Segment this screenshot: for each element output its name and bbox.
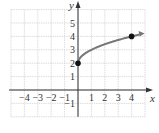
- x-tick-label: 3: [116, 92, 121, 103]
- y-tick-label: −1: [64, 98, 75, 109]
- y-tick-label: 3: [70, 44, 75, 55]
- x-tick-label: 4: [129, 92, 134, 103]
- function-graph: −4−3−2−11234−112345 x y: [0, 0, 159, 133]
- data-point: [75, 60, 81, 66]
- y-tick-label: 2: [70, 58, 75, 69]
- data-point: [129, 34, 135, 40]
- x-tick-label: −4: [19, 92, 30, 103]
- x-tick-label: 1: [89, 92, 94, 103]
- x-axis-label: x: [149, 92, 155, 104]
- y-axis-label: y: [68, 0, 74, 11]
- y-tick-label: 4: [70, 31, 75, 42]
- x-tick-label: −2: [46, 92, 57, 103]
- y-axis-arrow-icon: [76, 1, 81, 8]
- curve-arrow-icon: [139, 31, 145, 37]
- x-tick-label: 2: [102, 92, 107, 103]
- y-tick-label: 1: [70, 71, 75, 82]
- x-tick-label: −3: [32, 92, 43, 103]
- y-tick-label: 5: [70, 18, 75, 29]
